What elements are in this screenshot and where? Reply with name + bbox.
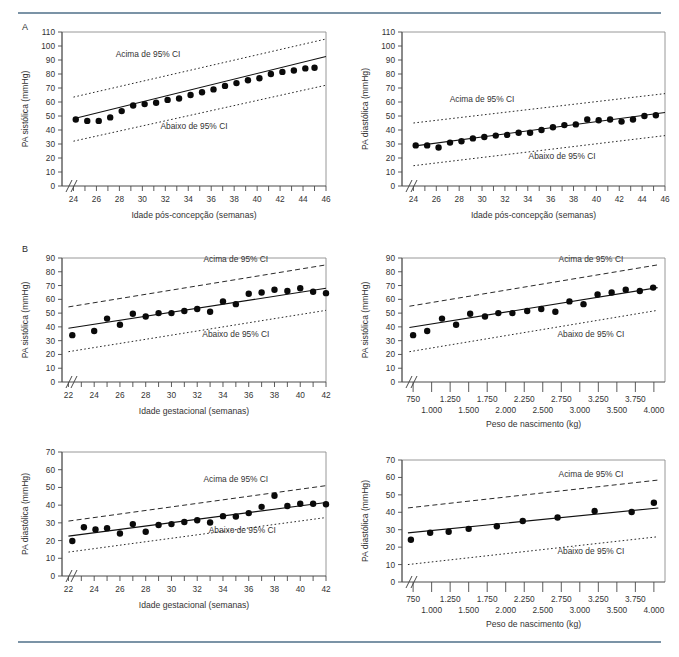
x-tick-label: 3.500	[606, 405, 627, 415]
data-point	[107, 114, 113, 120]
x-tick-label: 40	[296, 584, 306, 594]
ci-boundary-line	[68, 265, 326, 307]
data-point	[410, 332, 416, 338]
y-tick-label: 30	[386, 336, 396, 346]
y-tick-label: 70	[46, 447, 56, 457]
y-tick-label: 30	[46, 518, 56, 528]
data-point	[279, 69, 285, 75]
data-point	[130, 102, 136, 108]
x-tick-label: 26	[115, 584, 125, 594]
x-tick-label: 24	[90, 390, 100, 400]
x-tick-label: 38	[230, 194, 240, 204]
y-tick-label: 50	[46, 482, 56, 492]
y-tick-label: 80	[386, 69, 396, 79]
data-point	[130, 521, 136, 527]
ci-annotation-label: Acima de 95% CI	[559, 469, 624, 479]
data-point	[207, 309, 213, 315]
data-point	[650, 284, 656, 290]
data-point	[181, 308, 187, 314]
data-point	[595, 117, 601, 123]
data-point	[143, 313, 149, 319]
data-point	[164, 97, 170, 103]
y-tick-label: 0	[390, 181, 395, 191]
data-point	[256, 75, 262, 81]
x-tick-label: 34	[218, 390, 228, 400]
regression-line	[73, 57, 326, 119]
y-tick-label: 40	[386, 507, 396, 517]
y-tick-label: 70	[46, 83, 56, 93]
data-point	[246, 510, 252, 516]
x-tick-label: 2.750	[551, 594, 572, 604]
x-tick-label: 34	[184, 194, 194, 204]
x-tick-label: 34	[523, 194, 533, 204]
data-point	[69, 332, 75, 338]
data-point	[220, 513, 226, 519]
y-tick-label: 10	[46, 553, 56, 563]
x-tick-label: 28	[455, 194, 465, 204]
x-tick-label: 42	[321, 584, 331, 594]
data-point	[482, 313, 488, 319]
x-axis-title: Peso de nascimento (kg)	[486, 419, 581, 429]
data-point	[465, 526, 471, 532]
data-point	[233, 513, 239, 519]
x-tick-label: 30	[167, 584, 177, 594]
y-tick-label: 70	[386, 281, 396, 291]
x-tick-label: 40	[296, 390, 306, 400]
x-tick-label: 2.250	[514, 394, 535, 404]
data-point	[323, 290, 329, 296]
y-tick-label: 60	[386, 294, 396, 304]
y-tick-label: 70	[386, 455, 396, 465]
x-tick-label: 36	[244, 390, 254, 400]
ci-annotation-label: Acima de 95% CI	[204, 254, 269, 264]
data-point	[271, 286, 277, 292]
data-point	[538, 127, 544, 133]
data-point	[168, 521, 174, 527]
data-point	[194, 306, 200, 312]
y-tick-label: 40	[386, 322, 396, 332]
y-tick-label: 50	[386, 308, 396, 318]
y-tick-label: 60	[46, 97, 56, 107]
data-point	[447, 139, 453, 145]
x-tick-label: 38	[270, 390, 280, 400]
ci-boundary-line	[408, 480, 658, 508]
data-point	[515, 130, 521, 136]
ci-annotation-label: Acima de 95% CI	[204, 474, 269, 484]
y-tick-label: 0	[50, 181, 55, 191]
data-point	[591, 508, 597, 514]
data-point	[310, 501, 316, 507]
plot-frame	[62, 258, 326, 382]
bottom-divider-rule	[18, 641, 661, 643]
x-axis-title: Idade gestacional (semanas)	[139, 406, 249, 416]
x-tick-label: 1.250	[440, 594, 461, 604]
x-tick-label: 36	[244, 584, 254, 594]
chart-b-diastolic-birthweight: 0102030405060707501.0001.2501.5001.7502.…	[340, 438, 679, 640]
y-tick-label: 40	[46, 125, 56, 135]
data-point	[424, 328, 430, 334]
plot-b-systolic-gestational: 0102030405060708090222426283032343638404…	[0, 244, 340, 438]
data-point	[284, 503, 290, 509]
data-point	[92, 526, 98, 532]
x-tick-label: 3.750	[625, 594, 646, 604]
x-tick-label: 42	[615, 194, 625, 204]
y-tick-label: 20	[386, 153, 396, 163]
y-axis-title: PA sistólica (mmHg)	[20, 71, 30, 148]
chart-b-diastolic-gestational: 0102030405060702224262830323436384042Aci…	[0, 438, 340, 632]
y-tick-label: 40	[386, 125, 396, 135]
data-point	[623, 286, 629, 292]
data-point	[538, 306, 544, 312]
ci-annotation-label: Abaixo de 95% CI	[209, 525, 276, 535]
y-tick-label: 30	[386, 139, 396, 149]
x-tick-label: 32	[193, 390, 203, 400]
x-tick-label: 42	[275, 194, 285, 204]
y-tick-label: 20	[386, 542, 396, 552]
y-tick-label: 10	[46, 167, 56, 177]
x-tick-label: 2.500	[532, 605, 553, 615]
data-point	[453, 322, 459, 328]
y-tick-label: 90	[46, 55, 56, 65]
y-tick-label: 50	[386, 490, 396, 500]
data-point	[594, 291, 600, 297]
data-point	[653, 112, 659, 118]
data-point	[561, 122, 567, 128]
x-tick-label: 28	[115, 194, 125, 204]
y-tick-label: 0	[390, 577, 395, 587]
